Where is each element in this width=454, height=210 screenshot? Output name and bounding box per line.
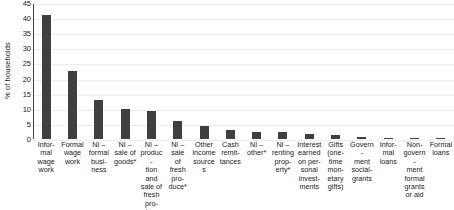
- bar-slot: [375, 4, 401, 140]
- bar-slot: [59, 4, 85, 140]
- x-axis-label-line: goods*: [113, 158, 137, 166]
- bar[interactable]: [121, 109, 130, 140]
- x-axis-label: Govern-mentsocial-grants: [350, 141, 374, 183]
- x-axis-label-slot: NI –other*: [244, 141, 270, 158]
- x-axis-label: Infor-malloans: [376, 141, 400, 166]
- x-axis-label: Gifts(one-timemon-etarygifts): [323, 141, 347, 191]
- bar-chart: % of households 051015202530354045 Infor…: [0, 0, 454, 210]
- x-axis-label-line: duce*: [166, 183, 190, 191]
- x-axis-label-line: ness: [87, 166, 111, 174]
- x-axis-label-line: or aid: [402, 191, 426, 199]
- bar-slot: [322, 4, 348, 140]
- y-axis-tick-label: 10: [23, 106, 31, 114]
- x-axis-label-slot: NI –rentingprop-erty*: [270, 141, 296, 175]
- y-axis-tick-label: 45: [23, 0, 31, 8]
- y-axis-tick-label: 20: [23, 76, 31, 84]
- y-axis-tick-label: 30: [23, 45, 31, 53]
- bar[interactable]: [42, 15, 51, 140]
- x-axis-label-line: tances: [218, 158, 242, 166]
- y-axis-tick-label: 0: [27, 136, 31, 144]
- x-axis-label-line: work: [60, 158, 84, 166]
- x-axis-labels: Infor-malwageworkFormalwageworkNI –forma…: [33, 141, 454, 210]
- bar-slot: [270, 4, 296, 140]
- x-axis-label: Formalwagework: [60, 141, 84, 166]
- bars-container: [33, 4, 454, 140]
- y-axis-title: % of households: [0, 0, 14, 140]
- x-axis-label-slot: NI –sale ofgoods*: [112, 141, 138, 166]
- x-axis-label: NI –saleoffreshpro-duce*: [166, 141, 190, 191]
- x-axis-label: Non-govern-mentformalgrantsor aid: [402, 141, 426, 200]
- x-axis-label-slot: Govern-mentsocial-grants: [349, 141, 375, 183]
- bar-slot: [33, 4, 59, 140]
- bar-slot: [244, 4, 270, 140]
- x-axis-label-line: duce: [139, 208, 163, 210]
- x-axis-label-line: Govern-: [350, 141, 374, 158]
- bar-slot: [349, 4, 375, 140]
- bar-slot: [217, 4, 243, 140]
- x-axis-label-slot: Formalwagework: [59, 141, 85, 166]
- x-axis-label-slot: Infor-malwagework: [33, 141, 59, 175]
- x-axis-label-line: produc-: [139, 149, 163, 166]
- x-axis-label-slot: NI –saleoffreshpro-duce*: [165, 141, 191, 191]
- y-axis-ticks: 051015202530354045: [14, 4, 31, 140]
- x-axis-label-slot: Formalloans: [428, 141, 454, 158]
- x-axis-label-line: other*: [245, 149, 269, 157]
- x-axis-label: Otherincomesources: [192, 141, 216, 175]
- bar[interactable]: [94, 100, 103, 140]
- bar-slot: [191, 4, 217, 140]
- y-axis-tick-label: 15: [23, 91, 31, 99]
- x-axis-label-line: loans: [376, 158, 400, 166]
- bar-slot: [296, 4, 322, 140]
- bar-slot: [401, 4, 427, 140]
- bar-slot: [86, 4, 112, 140]
- x-axis-label: Formalloans: [429, 141, 453, 158]
- x-axis-label-slot: NI –formalbusi-ness: [86, 141, 112, 175]
- x-axis-label-line: grants: [350, 175, 374, 183]
- bar[interactable]: [147, 111, 156, 140]
- x-axis-label: NI –rentingprop-erty*: [271, 141, 295, 175]
- x-axis-label: NI –produc-tionandsale offreshpro-duce: [139, 141, 163, 210]
- x-axis-label-line: work: [34, 166, 58, 174]
- plot-wrapper: 051015202530354045: [14, 4, 454, 140]
- x-axis-label-slot: Non-govern-mentformalgrantsor aid: [401, 141, 427, 200]
- x-axis-label-line: loans: [429, 149, 453, 157]
- bar[interactable]: [200, 126, 209, 140]
- x-axis-label: NI –formalbusi-ness: [87, 141, 111, 175]
- x-axis-label-slot: Interestearnedon per-sonalinvest-ments: [296, 141, 322, 191]
- bar-slot: [428, 4, 454, 140]
- bar[interactable]: [68, 71, 77, 141]
- x-axis-label-slot: NI –produc-tionandsale offreshpro-duce: [138, 141, 164, 210]
- y-axis-tick-label: 40: [23, 15, 31, 23]
- bar[interactable]: [173, 121, 182, 140]
- x-axis-label-line: sources: [192, 158, 216, 175]
- y-axis-title-text: % of households: [3, 42, 12, 99]
- plot-area: [33, 4, 454, 140]
- x-axis-label-line: gifts): [323, 183, 347, 191]
- x-axis-label-slot: Otherincomesources: [191, 141, 217, 175]
- y-axis-tick-label: 35: [23, 30, 31, 38]
- bar-slot: [112, 4, 138, 140]
- bar-slot: [165, 4, 191, 140]
- x-axis-label: Infor-malwagework: [34, 141, 58, 175]
- x-axis-label-slot: Infor-malloans: [375, 141, 401, 166]
- y-axis-tick-label: 5: [27, 121, 31, 129]
- x-axis-label: NI –other*: [245, 141, 269, 158]
- x-axis-label-slot: Cashremit-tances: [217, 141, 243, 166]
- x-axis-label: Interestearnedon per-sonalinvest-ments: [297, 141, 321, 191]
- x-axis-label-line: govern-: [402, 149, 426, 166]
- y-axis-tick-label: 25: [23, 60, 31, 68]
- bar-slot: [138, 4, 164, 140]
- x-axis-label-slot: Gifts(one-timemon-etarygifts): [322, 141, 348, 191]
- x-axis-label-line: erty*: [271, 166, 295, 174]
- x-axis-label: NI –sale ofgoods*: [113, 141, 137, 166]
- x-axis-label-line: ments: [297, 183, 321, 191]
- x-axis-label: Cashremit-tances: [218, 141, 242, 166]
